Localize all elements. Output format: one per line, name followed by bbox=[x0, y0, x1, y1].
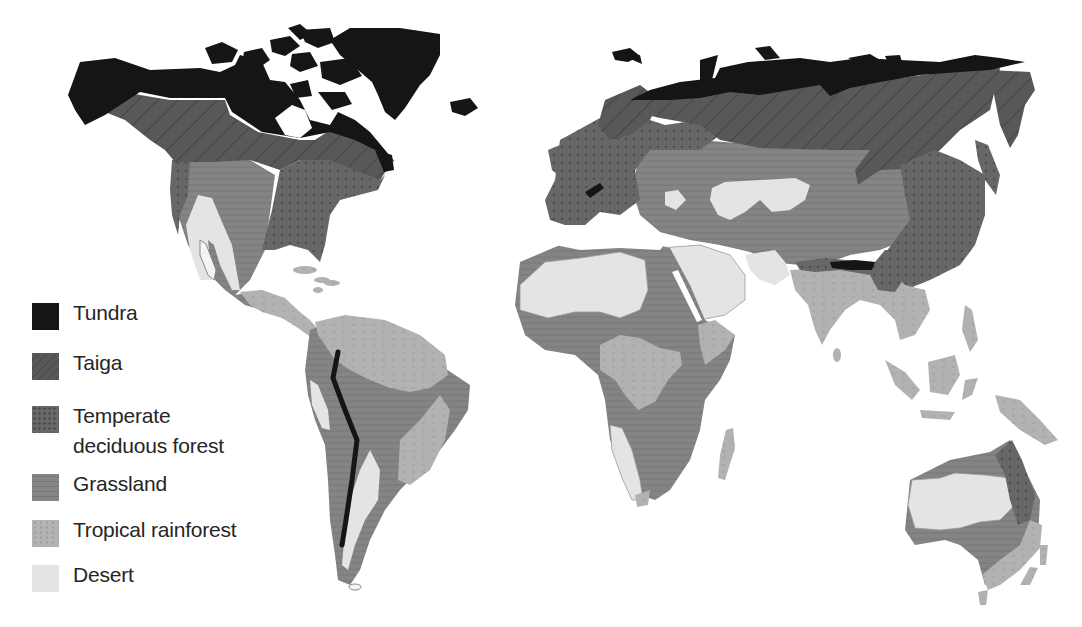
tasmania bbox=[978, 590, 988, 605]
sulawesi bbox=[962, 378, 978, 400]
tropical-swatch-icon bbox=[32, 520, 59, 547]
tundra-swatch-icon bbox=[32, 303, 59, 330]
legend-item-taiga: Taiga bbox=[32, 350, 122, 380]
desert-swatch-icon bbox=[32, 565, 59, 592]
taiga-swatch-icon bbox=[32, 353, 59, 380]
legend-label: Desert bbox=[73, 562, 134, 588]
tundra-island bbox=[755, 46, 780, 60]
legend-label: Taiga bbox=[73, 350, 122, 376]
legend-label: Tundra bbox=[73, 300, 138, 326]
iceland-tundra bbox=[450, 98, 478, 116]
legend-item-tropical: Tropical rainforest bbox=[32, 517, 236, 547]
caribbean-island bbox=[313, 287, 323, 293]
tropical-region bbox=[240, 290, 320, 338]
tundra-island bbox=[300, 28, 335, 48]
new-zealand bbox=[1040, 545, 1048, 565]
himalaya-tundra bbox=[830, 260, 875, 270]
mediterranean-sea bbox=[555, 222, 670, 250]
north-america bbox=[68, 24, 478, 338]
kamchatka-taiga bbox=[990, 70, 1035, 148]
island bbox=[833, 348, 841, 362]
australia bbox=[905, 440, 1048, 605]
madagascar bbox=[718, 428, 735, 480]
legend-label: Temperate deciduous forest bbox=[73, 403, 224, 459]
tundra-island bbox=[205, 42, 238, 64]
legend-item-grassland: Grassland bbox=[32, 471, 167, 501]
tundra-island bbox=[318, 92, 352, 110]
tundra-island bbox=[885, 55, 902, 63]
new-zealand bbox=[1020, 567, 1038, 585]
grassland-swatch-icon bbox=[32, 474, 59, 501]
legend-label-line2: deciduous forest bbox=[73, 433, 224, 459]
tundra-island bbox=[270, 36, 300, 56]
legend-item-tundra: Tundra bbox=[32, 300, 138, 330]
borneo bbox=[928, 355, 960, 395]
island bbox=[349, 584, 361, 590]
new-guinea bbox=[995, 395, 1058, 445]
sumatra bbox=[885, 360, 920, 400]
philippines bbox=[962, 305, 978, 352]
caribbean-island bbox=[324, 280, 340, 286]
caribbean-island bbox=[293, 266, 317, 274]
temperate-swatch-icon bbox=[32, 406, 59, 433]
legend-label: Tropical rainforest bbox=[73, 517, 236, 543]
tundra-island bbox=[290, 52, 318, 72]
legend-item-temperate: Temperate deciduous forest bbox=[32, 403, 224, 459]
legend-label: Grassland bbox=[73, 471, 167, 497]
legend-item-desert: Desert bbox=[32, 562, 134, 592]
south-america bbox=[305, 315, 470, 590]
java bbox=[920, 410, 955, 420]
legend-label-line1: Temperate bbox=[73, 403, 224, 429]
